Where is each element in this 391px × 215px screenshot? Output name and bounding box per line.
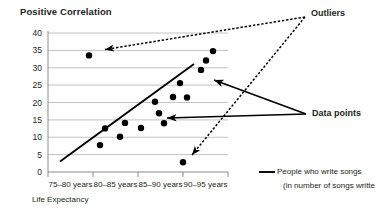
data-point	[210, 48, 216, 54]
correlation-chart-figure: Positive Correlation	[0, 0, 391, 215]
data-point	[138, 125, 144, 131]
data-point	[170, 94, 176, 100]
data-point	[203, 57, 209, 63]
x-axis-ticks	[48, 172, 228, 177]
legend-series-label: People who write songs	[277, 168, 362, 176]
y-tick-label: 15	[20, 116, 42, 125]
gridlines	[48, 33, 228, 155]
y-tick-label: 35	[20, 46, 42, 55]
data-point	[184, 94, 190, 100]
data-point	[198, 67, 204, 73]
x-tick-label: 90–95 years	[175, 181, 237, 189]
data-point	[180, 159, 186, 165]
y-tick-label: 25	[20, 81, 42, 90]
data-point	[86, 52, 92, 58]
data-point	[117, 134, 123, 140]
y-tick-label: 5	[20, 151, 42, 160]
annotation-data-points-label: Data points	[312, 109, 361, 118]
y-tick-label: 40	[20, 29, 42, 38]
legend-series-unit: (in number of songs writte	[283, 182, 375, 190]
y-tick-label: 10	[20, 133, 42, 142]
y-tick-label: 20	[20, 99, 42, 108]
x-axis-title: Life Expectancy	[32, 196, 88, 204]
data-point	[152, 99, 158, 105]
data-point	[97, 142, 103, 148]
data-point	[122, 120, 128, 126]
data-point	[102, 125, 108, 131]
data-point	[177, 80, 183, 86]
annotation-outliers-label: Outliers	[311, 9, 345, 18]
y-tick-label: 0	[20, 168, 42, 177]
scatter-points	[86, 48, 216, 166]
data-point	[161, 120, 167, 126]
outliers-callout-arrows	[105, 17, 305, 155]
y-tick-label: 30	[20, 64, 42, 73]
data-point	[156, 110, 162, 116]
trend-line	[60, 64, 194, 161]
